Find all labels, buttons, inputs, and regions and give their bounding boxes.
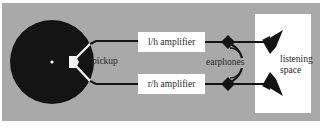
left-amplifier: l/h amplifier (138, 32, 205, 52)
listening-space-label-line1: listening (280, 55, 313, 65)
diagram-canvas (0, 0, 326, 128)
record-disc-icon (10, 20, 94, 104)
listening-space-label-line2: space (280, 66, 301, 76)
pickup-label: pickup (92, 57, 118, 67)
earphones-label: earphones (206, 58, 245, 68)
right-amplifier: r/h amplifier (138, 74, 205, 94)
right-amplifier-label: r/h amplifier (148, 79, 196, 89)
stereo-signal-diagram: pickup l/h amplifier r/h amplifier earph… (0, 0, 326, 128)
left-amplifier-label: l/h amplifier (148, 37, 195, 47)
